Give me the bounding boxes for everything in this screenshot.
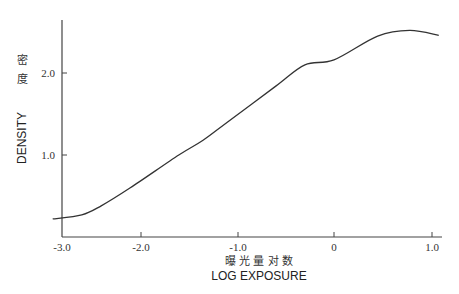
x-tick-label: -2.0 (132, 241, 150, 253)
x-tick-label: 1.0 (425, 241, 439, 253)
y-axis-label: DENSITY (15, 112, 29, 164)
characteristic-curve-chart: 2.0 1.0 -3.0 -2.0 -1.0 0 1.0 曝 光 量 对 数 L… (0, 0, 459, 294)
x-axis-label-cn: 曝 光 量 对 数 (225, 254, 294, 268)
y-axis-label-cn: 密 (17, 53, 28, 67)
y-tick-label: 1.0 (41, 149, 55, 161)
y-tick-label: 2.0 (41, 67, 55, 79)
y-axis-label-cn: 度 (17, 72, 28, 86)
x-tick-label: -3.0 (53, 241, 71, 253)
density-curve (53, 30, 439, 219)
x-tick-label: -1.0 (229, 241, 247, 253)
x-tick-label: 0 (331, 241, 337, 253)
x-axis-label: LOG EXPOSURE (211, 269, 306, 283)
